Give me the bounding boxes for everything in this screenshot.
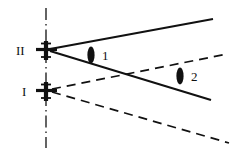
diagram-canvas: 1 2 II I <box>0 0 234 154</box>
region-1-lens-icon <box>87 47 94 64</box>
station-marker-II <box>36 41 57 60</box>
ray-diagram-figure: 1 2 II I <box>0 0 234 154</box>
ray-solid-lower <box>50 51 211 100</box>
region-2-label: 2 <box>191 69 198 84</box>
station-label-II: II <box>16 43 25 58</box>
ray-dashed-lower <box>52 92 229 143</box>
station-label-I: I <box>22 84 26 99</box>
region-1-label: 1 <box>102 48 109 63</box>
station-marker-I <box>36 82 57 101</box>
region-2-lens-icon <box>176 68 183 85</box>
ray-solid-upper <box>50 19 213 49</box>
